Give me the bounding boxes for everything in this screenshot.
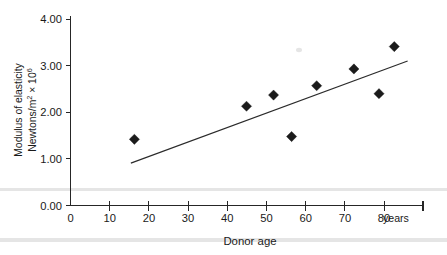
y-axis-title-line1: Modulus of elasticity xyxy=(13,62,24,156)
y-tick-label-3.00: 3.00 xyxy=(40,60,62,72)
y-axis-title-sup-exponent: 6 xyxy=(25,68,34,72)
y-axis-title-line2: Newtons/m2 × 106 xyxy=(25,68,39,151)
x-axis-title: Donor age xyxy=(223,235,276,247)
scatter-chart: 0.001.002.003.004.00 01020304050607080 y… xyxy=(0,0,447,255)
y-axis-title-units-mid: × 10 xyxy=(27,72,38,96)
x-tick-label-0: 0 xyxy=(67,212,73,224)
y-axis-title-units-prefix: Newtons/m xyxy=(27,100,38,152)
x-axis-tick-labels: 01020304050607080 xyxy=(67,212,390,224)
y-tick-label-2.00: 2.00 xyxy=(40,106,62,118)
x-tick-label-40: 40 xyxy=(221,212,233,224)
y-tick-label-4.00: 4.00 xyxy=(40,13,62,25)
x-tick-label-50: 50 xyxy=(260,212,272,224)
x-tick-label-70: 70 xyxy=(339,212,351,224)
chart-canvas: 0.001.002.003.004.00 01020304050607080 y… xyxy=(0,0,447,255)
x-tick-label-30: 30 xyxy=(182,212,194,224)
y-tick-label-1.00: 1.00 xyxy=(40,153,62,165)
x-axis-unit-label: years xyxy=(383,212,409,224)
x-tick-label-10: 10 xyxy=(103,212,115,224)
x-tick-label-60: 60 xyxy=(299,212,311,224)
x-tick-label-20: 20 xyxy=(143,212,155,224)
y-tick-label-0.00: 0.00 xyxy=(40,200,62,212)
